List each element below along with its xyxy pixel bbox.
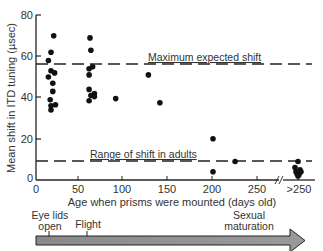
data-point <box>47 97 53 103</box>
adult-range-label: Range of shift in adults <box>90 148 197 160</box>
scatter-chart: 80 60 40 20 0 Mean shift in ITD tuning (… <box>0 0 323 251</box>
adult-range-line: Range of shift in adults <box>36 148 312 161</box>
y-axis: 80 60 40 20 0 Mean shift in ITD tuning (… <box>5 9 41 184</box>
max-expected-shift-label: Maximum expected shift <box>148 51 261 63</box>
x-tick-over-250: >250 <box>287 183 312 195</box>
y-tick-80: 80 <box>21 9 33 21</box>
flight-label: Flight <box>75 218 101 230</box>
data-point <box>88 47 94 53</box>
data-point <box>146 72 152 78</box>
data-point <box>210 136 216 142</box>
development-timeline: Eye lids open Flight Sexual maturation <box>32 209 305 251</box>
data-point <box>51 33 57 39</box>
x-tick-0: 0 <box>33 183 39 195</box>
x-tick-50: 50 <box>72 183 84 195</box>
data-point <box>295 173 301 179</box>
y-tick-20: 20 <box>21 133 33 145</box>
data-point <box>50 80 56 86</box>
y-axis-label: Mean shift in ITD tuning (µsec) <box>5 23 17 173</box>
x-tick-150: 150 <box>158 183 176 195</box>
data-point <box>92 94 98 100</box>
data-point <box>87 35 93 41</box>
data-point <box>50 89 56 95</box>
data-point <box>210 169 216 175</box>
data-point <box>46 74 52 80</box>
data-point <box>48 50 54 56</box>
data-point <box>295 159 301 165</box>
data-point <box>48 107 54 113</box>
eyelids-open-label-2: open <box>38 220 62 232</box>
data-point <box>232 159 238 165</box>
sexual-maturation-label-2: maturation <box>224 220 274 232</box>
data-point <box>113 96 119 102</box>
x-axis: 0 50 100 150 200 250 >250 Age when prism… <box>33 176 315 208</box>
data-point <box>157 100 163 106</box>
data-point <box>86 72 92 78</box>
max-expected-shift-line: Maximum expected shift <box>36 51 312 64</box>
data-point <box>86 98 92 104</box>
x-tick-100: 100 <box>113 183 131 195</box>
data-point <box>52 70 58 76</box>
data-point <box>53 102 59 108</box>
data-point <box>46 58 52 64</box>
data-point <box>86 87 92 93</box>
y-tick-40: 40 <box>21 91 33 103</box>
y-tick-60: 60 <box>21 50 33 62</box>
x-tick-250: 250 <box>248 183 266 195</box>
x-tick-200: 200 <box>203 183 221 195</box>
data-point <box>86 66 92 72</box>
timeline-arrow <box>36 229 305 251</box>
x-axis-label: Age when prisms were mounted (days old) <box>68 196 276 208</box>
